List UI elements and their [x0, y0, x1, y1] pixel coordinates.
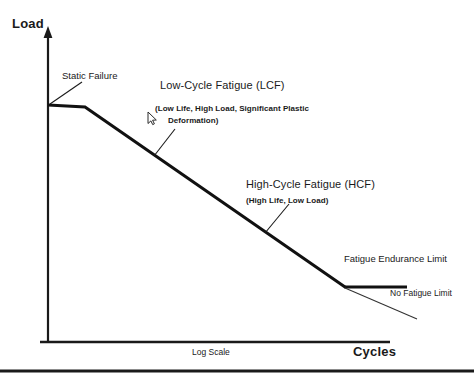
static-failure-label: Static Failure: [62, 71, 117, 82]
no-fatigue-limit-label: No Fatigue Limit: [390, 289, 452, 299]
lcf-title-label: Low-Cycle Fatigue (LCF): [160, 79, 285, 92]
y-axis-arrowhead-icon: [44, 26, 53, 38]
fatigue-endurance-limit-label: Fatigue Endurance Limit: [344, 254, 447, 265]
x-axis-title: Cycles: [353, 345, 396, 360]
lcf-subtitle-line-1: (Low Life, High Load, Significant Plasti…: [155, 104, 309, 113]
hcf-subtitle-label: (High Life, Low Load): [246, 196, 328, 205]
lcf-subtitle-line-2: Deformation): [168, 116, 309, 125]
y-axis-title: Load: [12, 17, 44, 32]
lcf-leader-line: [154, 129, 175, 156]
static-failure-leader-line: [50, 82, 82, 104]
lcf-subtitle-label: (Low Life, High Load, Significant Plasti…: [155, 104, 309, 125]
hcf-title-label: High-Cycle Fatigue (HCF): [246, 178, 375, 191]
hcf-leader-line: [265, 204, 289, 233]
fatigue-curve-diagram: [0, 0, 474, 381]
log-scale-label: Log Scale: [192, 348, 230, 358]
